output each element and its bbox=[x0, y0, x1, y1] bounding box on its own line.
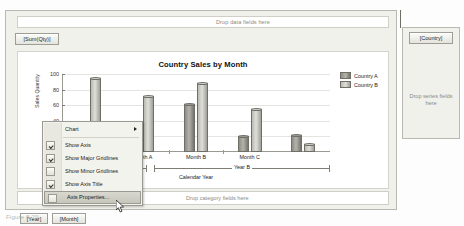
axis-context-menu[interactable]: ChartShow AxisShow Major GridlinesShow M… bbox=[42, 121, 143, 206]
screenshot-canvas: Drop data fields here [Sum(Qty)] Country… bbox=[0, 0, 464, 226]
data-fields-drop-placeholder: Drop data fields here bbox=[216, 19, 270, 25]
bar-top-cap bbox=[304, 143, 315, 146]
band-tick bbox=[154, 165, 155, 172]
bar-top-cap bbox=[238, 135, 249, 138]
bar-top-cap bbox=[143, 95, 154, 98]
legend-item: Country B bbox=[340, 81, 378, 88]
x-axis-tick-label: Month C bbox=[239, 154, 259, 160]
chart-legend: Country A Country B bbox=[340, 72, 378, 90]
bar-series-b bbox=[251, 109, 262, 152]
bar-series-a bbox=[184, 104, 195, 152]
context-menu-item-label: Show Major Gridlines bbox=[65, 155, 118, 161]
bar-top-cap bbox=[90, 77, 101, 80]
band-tick bbox=[329, 165, 330, 172]
series-fields-drop-placeholder: Drop series fields here bbox=[409, 93, 453, 107]
chevron-right-icon bbox=[134, 127, 137, 131]
context-menu-item-label: Axis Properties... bbox=[67, 194, 109, 200]
bar-top-cap bbox=[251, 108, 262, 111]
context-menu-item[interactable]: Chart bbox=[43, 123, 142, 136]
context-menu-separator bbox=[63, 137, 139, 138]
legend-swatch-series-a bbox=[340, 72, 351, 79]
bar-series-a bbox=[291, 135, 302, 152]
checkbox-unchecked-icon[interactable] bbox=[48, 194, 57, 203]
checkbox-unchecked-icon[interactable] bbox=[46, 167, 55, 176]
bar-series-b bbox=[304, 144, 315, 152]
bar-top-cap bbox=[184, 103, 195, 106]
checkbox-checked-icon[interactable] bbox=[46, 180, 55, 189]
x-axis-group-label: Year B bbox=[232, 164, 252, 170]
checkbox-checked-icon[interactable] bbox=[46, 141, 55, 150]
legend-label-series-b: Country B bbox=[354, 82, 378, 88]
context-menu-item-label: Show Axis Title bbox=[65, 181, 103, 187]
bar-series-a bbox=[238, 136, 249, 152]
y-axis-tick-label: 60 bbox=[53, 102, 59, 108]
figure-caption: Figure 8-29. bbox=[6, 214, 41, 220]
legend-swatch-series-b bbox=[340, 81, 351, 88]
context-menu-item-label: Show Minor Gridlines bbox=[65, 168, 118, 174]
context-menu-item[interactable]: Show Axis bbox=[43, 139, 142, 152]
category-fields-drop-placeholder: Drop category fields here bbox=[186, 195, 249, 201]
series-panel-connector bbox=[400, 10, 401, 28]
y-axis-tick-label: 80 bbox=[53, 87, 59, 93]
field-button-month[interactable]: [Month] bbox=[52, 213, 86, 224]
legend-label-series-a: Country A bbox=[354, 73, 378, 79]
context-menu-item-label: Chart bbox=[65, 126, 79, 132]
bar-top-cap bbox=[197, 82, 208, 85]
mouse-cursor-icon bbox=[116, 200, 125, 213]
y-axis-title: Sales Quantity bbox=[34, 74, 40, 108]
checkbox-checked-icon[interactable] bbox=[46, 154, 55, 163]
bar-top-cap bbox=[291, 134, 302, 137]
x-axis-tick-mark bbox=[223, 150, 224, 154]
context-menu-item[interactable]: Axis Properties... bbox=[44, 191, 141, 204]
context-menu-item-label: Show Axis bbox=[65, 142, 91, 148]
x-axis-tick-label: Month B bbox=[186, 154, 206, 160]
data-fields-drop-zone[interactable]: Drop data fields here bbox=[17, 16, 389, 28]
y-axis-tick-label: 100 bbox=[50, 71, 59, 77]
x-axis-tick-mark bbox=[169, 150, 170, 154]
context-menu-item[interactable]: Show Axis Title bbox=[43, 178, 142, 191]
context-menu-item[interactable]: Show Minor Gridlines bbox=[43, 165, 142, 178]
chart-title: Country Sales by Month bbox=[18, 60, 388, 69]
legend-item: Country A bbox=[340, 72, 378, 79]
field-button-sum-qty[interactable]: [Sum(Qty)] bbox=[15, 33, 59, 45]
context-menu-item[interactable]: Show Major Gridlines bbox=[43, 152, 142, 165]
bar-series-b bbox=[197, 83, 208, 152]
field-button-country[interactable]: [Country] bbox=[409, 32, 453, 44]
bar-series-b bbox=[143, 96, 154, 152]
band-tick bbox=[146, 165, 147, 172]
